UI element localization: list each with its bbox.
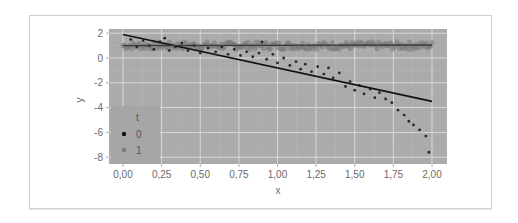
data-point bbox=[261, 40, 264, 43]
x-tick-label: 1,25 bbox=[306, 169, 326, 180]
x-tick-label: 0,00 bbox=[113, 169, 133, 180]
y-axis: 20-2-4-6-8 bbox=[94, 28, 109, 163]
legend-title: t bbox=[136, 112, 139, 123]
data-point bbox=[271, 53, 274, 56]
y-tick-label: -8 bbox=[94, 152, 103, 163]
data-point bbox=[407, 120, 410, 123]
x-tick-label: 2,00 bbox=[422, 169, 442, 180]
data-point bbox=[245, 50, 248, 53]
data-point bbox=[327, 67, 330, 70]
data-point bbox=[403, 114, 406, 117]
legend: t 0 1 bbox=[111, 106, 160, 164]
data-point bbox=[338, 71, 341, 74]
y-tick-label: 2 bbox=[97, 28, 103, 39]
data-point bbox=[418, 129, 421, 132]
y-tick-label: 0 bbox=[97, 53, 103, 64]
data-point bbox=[384, 98, 387, 101]
data-point bbox=[186, 49, 189, 52]
y-tick-label: -2 bbox=[94, 77, 103, 88]
data-point bbox=[322, 73, 325, 76]
data-point bbox=[316, 65, 319, 68]
scatter-plot: t 0 1 0,000,250,500,751,001,251,501,752,… bbox=[0, 0, 518, 223]
legend-key-0-icon bbox=[122, 132, 126, 136]
legend-label-0: 0 bbox=[136, 129, 142, 140]
data-point bbox=[180, 42, 183, 45]
x-tick-label: 0,25 bbox=[152, 169, 172, 180]
data-point bbox=[299, 68, 302, 71]
x-axis: 0,000,250,500,751,001,251,501,752,00 bbox=[113, 164, 442, 180]
y-axis-title: y bbox=[74, 98, 85, 103]
data-point bbox=[304, 63, 307, 66]
legend-label-1: 1 bbox=[136, 145, 142, 156]
data-point bbox=[227, 53, 230, 56]
data-point bbox=[424, 135, 427, 138]
x-tick-label: 1,50 bbox=[345, 169, 365, 180]
data-point bbox=[363, 93, 366, 96]
data-point bbox=[239, 54, 242, 57]
data-point bbox=[264, 40, 269, 45]
data-point bbox=[428, 151, 431, 154]
x-axis-title: x bbox=[276, 185, 281, 196]
x-tick-label: 0,75 bbox=[229, 169, 249, 180]
fit-line-1 bbox=[123, 45, 432, 46]
data-point bbox=[412, 124, 415, 127]
data-point bbox=[378, 91, 381, 94]
y-tick-label: -4 bbox=[94, 102, 103, 113]
data-point bbox=[349, 80, 352, 83]
x-tick-label: 1,75 bbox=[384, 169, 404, 180]
y-tick-label: -6 bbox=[94, 127, 103, 138]
data-point bbox=[295, 60, 298, 63]
x-tick-label: 0,50 bbox=[191, 169, 211, 180]
data-point bbox=[163, 37, 166, 40]
data-point bbox=[373, 96, 376, 99]
data-point bbox=[168, 49, 171, 52]
data-point bbox=[153, 48, 156, 51]
data-point bbox=[282, 57, 285, 60]
data-point bbox=[288, 64, 291, 67]
data-point bbox=[353, 89, 356, 92]
data-point bbox=[390, 101, 393, 104]
data-point bbox=[258, 52, 261, 55]
data-point bbox=[397, 109, 400, 112]
data-point bbox=[332, 76, 335, 79]
data-point bbox=[251, 55, 254, 58]
legend-key-1-icon bbox=[122, 148, 126, 152]
data-point bbox=[214, 50, 217, 53]
data-point bbox=[129, 38, 132, 41]
data-point bbox=[344, 85, 347, 88]
x-tick-label: 1,00 bbox=[268, 169, 288, 180]
data-point bbox=[276, 62, 279, 65]
data-point bbox=[207, 47, 210, 50]
data-point bbox=[265, 58, 268, 61]
data-point bbox=[233, 48, 236, 51]
data-point bbox=[310, 70, 313, 73]
